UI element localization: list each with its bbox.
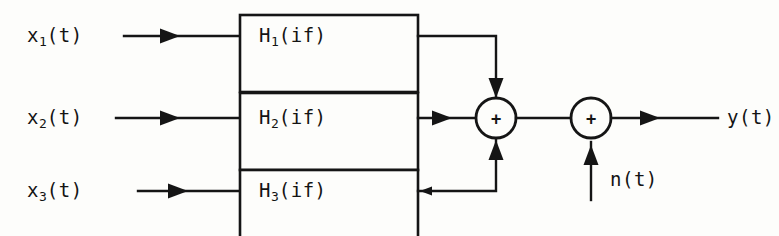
h3-reverse-arrowhead <box>420 187 432 196</box>
output-label: y(t) <box>727 106 775 128</box>
wire-output-y <box>611 111 718 126</box>
filter-block-h2 <box>240 93 418 170</box>
noise-label: n(t) <box>610 168 658 190</box>
input-wire-x3 <box>138 184 240 199</box>
wire-h2-to-adder <box>418 111 474 126</box>
input-wire-x1 <box>124 29 240 44</box>
filter-block-label-h2: H2(if) <box>259 106 327 131</box>
input-wire-x2 <box>116 111 240 126</box>
input-label-x3: x3(t) <box>27 179 83 204</box>
block-diagram-figure: x1(t) x2(t) x3(t) H1(if) H2(if) H3(if) +… <box>0 0 779 236</box>
summing-junction-noise-plus: + <box>586 111 596 128</box>
filter-block-label-h1: H1(if) <box>259 24 327 49</box>
wire-h3-to-adder <box>418 137 504 196</box>
wire-h1-to-adder <box>418 36 504 100</box>
input-label-x1: x1(t) <box>27 24 83 49</box>
input-label-x2: x2(t) <box>27 106 83 131</box>
summing-junction-signals-plus: + <box>491 111 501 128</box>
wire-noise-input <box>584 142 599 200</box>
filter-block-label-h3: H3(if) <box>259 179 327 204</box>
